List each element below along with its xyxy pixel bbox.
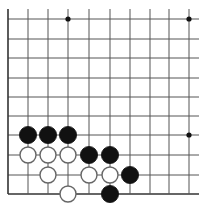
- white-stone[interactable]: [60, 186, 76, 202]
- go-board[interactable]: [0, 0, 206, 207]
- white-stone[interactable]: [102, 167, 118, 183]
- hoshi-point-icon: [65, 16, 70, 21]
- white-stone[interactable]: [40, 147, 56, 163]
- black-stone[interactable]: [59, 126, 76, 143]
- white-stone[interactable]: [60, 147, 76, 163]
- white-stone[interactable]: [81, 167, 97, 183]
- hoshi-point-icon: [186, 132, 191, 137]
- white-stone[interactable]: [20, 147, 36, 163]
- white-stone[interactable]: [40, 167, 56, 183]
- black-stone[interactable]: [80, 146, 97, 163]
- black-stone[interactable]: [101, 185, 118, 202]
- stones-layer: [19, 126, 138, 202]
- hoshi-point-icon: [186, 16, 191, 21]
- black-stone[interactable]: [121, 166, 138, 183]
- black-stone[interactable]: [39, 126, 56, 143]
- black-stone[interactable]: [101, 146, 118, 163]
- board-grid: [8, 9, 199, 194]
- star-points: [65, 16, 191, 137]
- black-stone[interactable]: [19, 126, 36, 143]
